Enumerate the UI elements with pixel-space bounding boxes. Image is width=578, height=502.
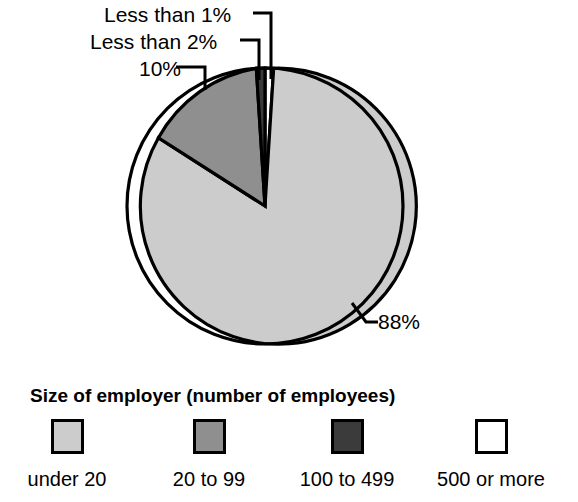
legend-swatch-20-to-99 [193,419,226,454]
legend-item-100-to-499: 100 to 499 [280,419,414,490]
legend-swatch-100-to-499 [331,419,364,454]
legend-label-100-to-499: 100 to 499 [280,468,414,490]
callout-label-88-percent: 88% [378,311,420,332]
legend-label-20-to-99: 20 to 99 [142,468,276,490]
pie-chart-figure: Less than 1% Less than 2% 10% 88% Size o… [0,0,578,502]
chart-legend: Size of employer (number of employees) u… [0,375,578,502]
callout-label-10-percent: 10% [139,58,181,79]
legend-item-500-or-more: 500 or more [424,419,558,490]
legend-label-under-20: under 20 [0,468,134,490]
chart-plot-area: Less than 1% Less than 2% 10% 88% [0,0,578,375]
legend-label-500-or-more: 500 or more [424,468,558,490]
pie-chart-svg [0,0,578,375]
legend-swatch-500-or-more [475,419,508,454]
legend-title: Size of employer (number of employees) [30,385,395,407]
legend-item-20-to-99: 20 to 99 [142,419,276,490]
legend-swatch-under-20 [51,419,84,454]
callout-label-less-than-2: Less than 2% [90,31,217,52]
legend-item-under-20: under 20 [0,419,134,490]
callout-label-less-than-1: Less than 1% [104,4,231,25]
